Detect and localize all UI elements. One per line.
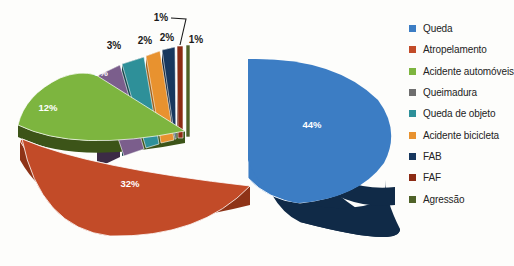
slice-label-queda: 44% (302, 119, 322, 130)
slice-top-agressao (186, 45, 190, 137)
slice-label-fab: 2% (160, 32, 175, 43)
legend-swatch-icon-queda-de-objeto (409, 110, 416, 117)
legend-swatch-icon-agressao (409, 196, 416, 203)
legend-swatch-icon-acidente-automoveis (409, 68, 416, 75)
legend-item-acidente-bicicleta[interactable]: Acidente bicicleta (409, 124, 514, 145)
legend-item-atropelamento[interactable]: Atropelamento (409, 39, 514, 60)
legend-label-acidente-bicicleta: Acidente bicicleta (423, 130, 499, 141)
legend-label-atropelamento: Atropelamento (423, 44, 487, 55)
slice-label-atropelamento: 32% (120, 178, 140, 189)
slice-top-faf (177, 46, 183, 138)
legend-label-acidente-automoveis: Acidente automóveis (423, 66, 514, 77)
legend-label-queda: Queda (423, 23, 453, 34)
slice-label-queimadura: 3% (94, 67, 108, 78)
legend-item-acidente-automoveis[interactable]: Acidente automóveis (409, 61, 514, 82)
legend-swatch-icon-queda (409, 25, 416, 32)
legend-swatch-icon-faf (409, 174, 416, 181)
legend-item-queimadura[interactable]: Queimadura (409, 82, 514, 103)
slice-label-acidente-bicicleta: 2% (138, 35, 153, 46)
legend-item-agressao[interactable]: Agressão (409, 188, 514, 209)
slice-label-faf: 1% (154, 12, 169, 23)
legend-swatch-icon-fab (409, 153, 416, 160)
legend-item-queda-de-objeto[interactable]: Queda de objeto (409, 103, 514, 124)
slice-label-queda-objeto: 3% (107, 40, 122, 51)
legend-label-faf: FAF (423, 172, 441, 183)
legend-swatch-icon-atropelamento (409, 46, 416, 53)
pie-chart-figure: 44% 32% 12% 3% 3% 2% 2% 1% 1% Queda Atro… (0, 0, 514, 266)
slice-top-queda-fill (248, 59, 391, 203)
legend-label-fab: FAB (423, 151, 442, 162)
legend-label-queimadura: Queimadura (423, 87, 477, 98)
chart-legend: Queda Atropelamento Acidente automóveis … (409, 18, 514, 210)
legend-item-faf[interactable]: FAF (409, 167, 514, 188)
slice-label-acidente-automoveis: 12% (38, 102, 58, 113)
legend-swatch-icon-queimadura (409, 89, 416, 96)
legend-label-agressao: Agressão (423, 194, 464, 205)
legend-label-queda-de-objeto: Queda de objeto (423, 108, 495, 119)
slice-label-agressao: 1% (189, 34, 204, 45)
exploded-slice-queda (248, 59, 400, 237)
legend-item-queda[interactable]: Queda (409, 18, 514, 39)
legend-item-fab[interactable]: FAB (409, 146, 514, 167)
legend-swatch-icon-acidente-bicicleta (409, 132, 416, 139)
